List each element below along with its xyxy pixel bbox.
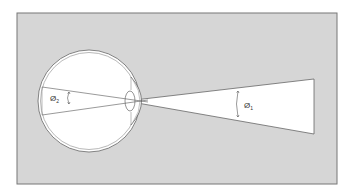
- lens: [125, 91, 135, 111]
- eye-visual-angle-diagram: Ø2 Ø1: [0, 0, 351, 194]
